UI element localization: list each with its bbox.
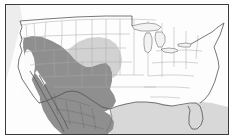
lake-ontario — [178, 43, 191, 47]
map-canvas — [6, 5, 228, 134]
map-frame — [5, 4, 229, 135]
distribution-map-figure — [0, 0, 234, 140]
lake-michigan — [144, 33, 152, 53]
gulf-of-mexico-water — [110, 102, 228, 134]
